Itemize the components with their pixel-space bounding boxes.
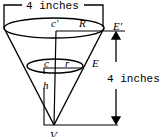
label-V: V <box>50 129 58 137</box>
label-h: h <box>43 79 49 91</box>
top-dimension-label: 4 inches <box>26 0 79 12</box>
label-E-prime: E' <box>112 20 123 32</box>
label-E: E <box>91 57 99 69</box>
cone-diagram: 4 inches 4 inches c' R E' c r E h V <box>0 0 165 137</box>
label-r: r <box>65 57 70 69</box>
axis-line <box>54 31 56 125</box>
label-c: c <box>44 57 49 69</box>
side-dimension-label: 4 inches <box>107 73 160 85</box>
label-R: R <box>78 17 86 29</box>
label-c-prime: c' <box>51 17 59 29</box>
